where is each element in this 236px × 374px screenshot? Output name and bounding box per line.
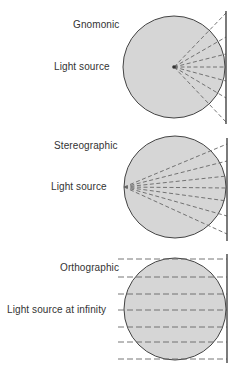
orthographic-globe <box>124 258 226 360</box>
light-source-dot-icon <box>172 65 176 69</box>
projection-diagram <box>0 0 236 374</box>
